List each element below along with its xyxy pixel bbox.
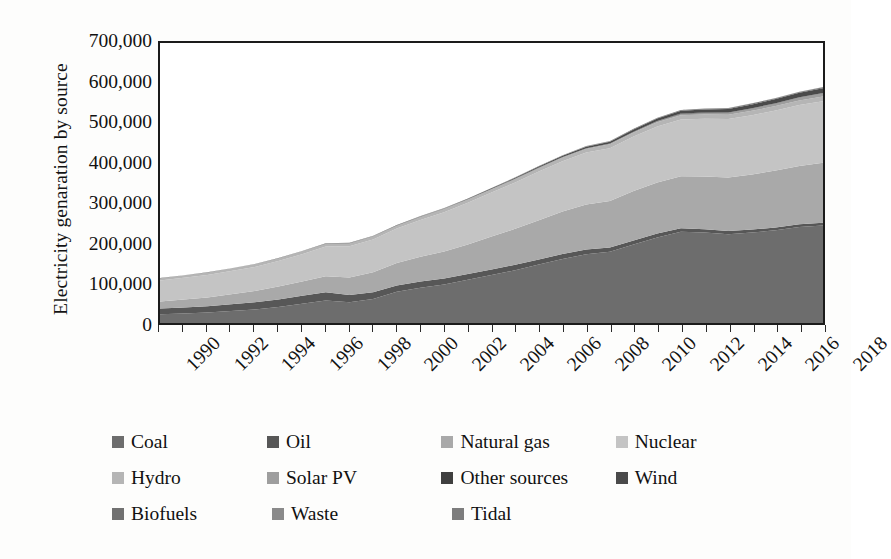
legend-item-nuclear[interactable]: Nuclear xyxy=(616,432,732,452)
x-tick-label: 2010 xyxy=(659,333,700,374)
legend-label: Waste xyxy=(291,504,338,524)
x-tick-label: 2014 xyxy=(754,333,795,374)
x-tickmark xyxy=(396,325,397,332)
y-tick-label: 600,000 xyxy=(89,72,152,92)
legend-item-oil[interactable]: Oil xyxy=(267,432,441,452)
x-axis-tick-labels: 1990199219941996199820002002200420062008… xyxy=(158,333,825,413)
x-tickmark xyxy=(515,325,516,332)
legend-item-wind[interactable]: Wind xyxy=(616,468,732,488)
legend-item-natural-gas[interactable]: Natural gas xyxy=(441,432,615,452)
legend-swatch-icon xyxy=(267,472,279,484)
x-tickmark xyxy=(301,325,302,332)
x-tickmark xyxy=(277,325,278,332)
legend-item-hydro[interactable]: Hydro xyxy=(112,468,267,488)
legend-row: CoalOilNatural gasNuclear xyxy=(112,424,732,460)
chart-legend: CoalOilNatural gasNuclearHydroSolar PVOt… xyxy=(112,424,732,532)
x-tickmark xyxy=(563,325,564,332)
x-tickmark xyxy=(801,325,802,332)
y-tick-label: 200,000 xyxy=(89,234,152,254)
x-tickmark xyxy=(658,325,659,332)
x-tick-label: 2002 xyxy=(468,333,509,374)
legend-label: Solar PV xyxy=(286,468,357,488)
x-tick-label: 2006 xyxy=(564,333,605,374)
legend-swatch-icon xyxy=(272,508,284,520)
legend-swatch-icon xyxy=(441,472,453,484)
legend-item-other-sources[interactable]: Other sources xyxy=(441,468,615,488)
x-tickmark xyxy=(206,325,207,332)
x-tickmark xyxy=(730,325,731,332)
legend-label: Coal xyxy=(131,432,168,452)
x-tickmark xyxy=(372,325,373,332)
legend-swatch-icon xyxy=(441,436,453,448)
x-tickmark xyxy=(325,325,326,332)
x-tickmark xyxy=(468,325,469,332)
x-tick-label: 2018 xyxy=(849,333,890,374)
legend-label: Wind xyxy=(635,468,678,488)
x-tickmark xyxy=(611,325,612,332)
x-tick-label: 1996 xyxy=(325,333,366,374)
x-axis-tickmarks xyxy=(158,325,825,333)
x-tick-label: 1992 xyxy=(230,333,271,374)
x-tickmark xyxy=(777,325,778,332)
x-tick-label: 2016 xyxy=(802,333,843,374)
legend-swatch-icon xyxy=(112,436,124,448)
x-tickmark xyxy=(587,325,588,332)
legend-label: Other sources xyxy=(460,468,568,488)
y-tick-label: 0 xyxy=(142,315,152,335)
x-tickmark xyxy=(253,325,254,332)
x-tick-label: 2000 xyxy=(421,333,462,374)
x-tickmark xyxy=(539,325,540,332)
legend-item-solar-pv[interactable]: Solar PV xyxy=(267,468,441,488)
legend-label: Hydro xyxy=(131,468,181,488)
legend-swatch-icon xyxy=(616,472,628,484)
legend-item-waste[interactable]: Waste xyxy=(272,504,452,524)
x-tickmark xyxy=(182,325,183,332)
legend-swatch-icon xyxy=(112,508,124,520)
y-tick-label: 500,000 xyxy=(89,112,152,132)
x-tickmark xyxy=(825,325,826,332)
x-tick-label: 2012 xyxy=(706,333,747,374)
legend-row: HydroSolar PVOther sourcesWind xyxy=(112,460,732,496)
y-tick-label: 100,000 xyxy=(89,275,152,295)
legend-swatch-icon xyxy=(452,508,464,520)
legend-swatch-icon xyxy=(112,472,124,484)
legend-label: Natural gas xyxy=(460,432,549,452)
x-tickmark xyxy=(682,325,683,332)
legend-swatch-icon xyxy=(267,436,279,448)
legend-label: Nuclear xyxy=(635,432,697,452)
legend-row: BiofuelsWasteTidal xyxy=(112,496,732,532)
x-tick-label: 2008 xyxy=(611,333,652,374)
y-tick-label: 300,000 xyxy=(89,194,152,214)
x-tickmark xyxy=(706,325,707,332)
legend-item-coal[interactable]: Coal xyxy=(112,432,267,452)
legend-label: Tidal xyxy=(471,504,511,524)
x-tickmark xyxy=(158,325,159,332)
x-tickmark xyxy=(634,325,635,332)
legend-label: Oil xyxy=(286,432,311,452)
x-tickmark xyxy=(444,325,445,332)
y-tick-label: 400,000 xyxy=(89,153,152,173)
x-tickmark xyxy=(754,325,755,332)
y-axis-tick-labels: 0100,000200,000300,000400,000500,000600,… xyxy=(34,41,152,325)
x-tick-label: 1998 xyxy=(373,333,414,374)
x-tickmark xyxy=(229,325,230,332)
x-tickmark xyxy=(492,325,493,332)
plot-area xyxy=(158,41,825,325)
x-tickmark xyxy=(420,325,421,332)
x-tick-label: 1994 xyxy=(278,333,319,374)
legend-label: Biofuels xyxy=(131,504,197,524)
legend-item-tidal[interactable]: Tidal xyxy=(452,504,632,524)
x-tickmark xyxy=(349,325,350,332)
x-tick-label: 2004 xyxy=(516,333,557,374)
legend-item-biofuels[interactable]: Biofuels xyxy=(112,504,272,524)
stacked-area-plot xyxy=(160,43,823,323)
legend-swatch-icon xyxy=(616,436,628,448)
x-tick-label: 1990 xyxy=(182,333,223,374)
y-tick-label: 700,000 xyxy=(89,31,152,51)
